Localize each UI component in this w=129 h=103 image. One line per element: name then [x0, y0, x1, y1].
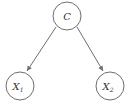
node-c-label: C — [63, 11, 71, 22]
node-x2: X2 — [96, 72, 124, 100]
edge-c-to-x1 — [27, 27, 56, 71]
node-x1: X1 — [6, 72, 34, 100]
graph-canvas: C X1 X2 — [0, 0, 129, 103]
node-c: C — [53, 2, 81, 30]
edge-c-to-x2 — [77, 27, 103, 71]
